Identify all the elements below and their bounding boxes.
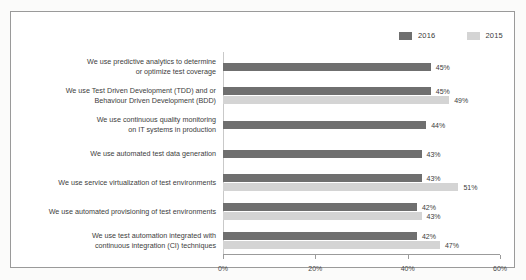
chart-row: We use test automation integrated withco… [223,232,500,249]
category-label-line: We use Test Driven Development (TDD) and… [66,86,216,96]
x-axis-tick-label: 0% [218,265,228,272]
x-axis-line [223,254,500,255]
bar-2016[interactable]: 45% [223,63,431,71]
bar-value-label: 43% [427,213,441,220]
x-axis-tick-label: 40% [401,265,415,272]
legend-item-2016[interactable]: 2016 [399,31,436,40]
category-label: We use service virtualization of test en… [58,178,216,188]
category-label-line: Behaviour Driven Development (BDD) [66,96,216,106]
bar-value-label: 51% [463,184,477,191]
category-label-line: We use test automation integrated with [92,231,216,241]
legend-label-2015: 2015 [486,31,504,40]
bar-value-label: 49% [454,97,468,104]
bar-2015[interactable]: 43% [223,212,422,220]
category-label: We use continuous quality monitoringon I… [97,115,216,135]
x-axis-tick [223,255,224,259]
category-label-line: continuous integration (CI) techniques [92,241,216,251]
bar-2016[interactable]: 42% [223,232,417,240]
category-label: We use automated test data generation [90,149,216,159]
bar-2016[interactable]: 44% [223,121,426,129]
legend-swatch-2016 [399,32,412,40]
bar-2015[interactable]: 49% [223,96,449,104]
category-label-line: We use automated test data generation [90,149,216,159]
category-label-line: on IT systems in production [97,125,216,135]
bar-2016[interactable]: 43% [223,174,422,182]
bar-2016[interactable]: 43% [223,150,422,158]
chart-row: We use automated provisioning of test en… [223,203,500,220]
bar-value-label: 45% [436,63,450,70]
bar-value-label: 43% [427,150,441,157]
category-label: We use Test Driven Development (TDD) and… [66,86,216,106]
bar-value-label: 43% [427,175,441,182]
category-label: We use automated provisioning of test en… [49,207,216,217]
category-label-line: We use predictive analytics to determine [87,57,216,67]
category-label-line: or optimize test coverage [87,67,216,77]
x-axis-tick-label: 60% [493,265,507,272]
chart-row: We use continuous quality monitoringon I… [223,121,500,129]
bar-value-label: 47% [445,242,459,249]
x-axis-tick [408,255,409,259]
x-axis-tick-label: 20% [308,265,322,272]
chart-row: We use service virtualization of test en… [223,174,500,191]
legend-label-2016: 2016 [418,31,436,40]
x-axis-tick [500,255,501,259]
chart-container: 20162015 0%20%40%60%We use predictive an… [10,11,515,268]
plot-area: 0%20%40%60%We use predictive analytics t… [223,52,500,255]
chart-legend: 20162015 [399,31,503,40]
bar-value-label: 42% [422,204,436,211]
category-label-line: We use continuous quality monitoring [97,115,216,125]
legend-swatch-2015 [467,32,480,40]
bar-2015[interactable]: 47% [223,241,440,249]
bar-2015[interactable]: 51% [223,183,458,191]
bar-value-label: 42% [422,233,436,240]
x-axis-tick [315,255,316,259]
chart-row: We use predictive analytics to determine… [223,63,500,71]
category-label-line: We use automated provisioning of test en… [49,207,216,217]
bar-2016[interactable]: 42% [223,203,417,211]
category-label: We use test automation integrated withco… [92,231,216,251]
bar-2016[interactable]: 45% [223,87,431,95]
legend-item-2015[interactable]: 2015 [467,31,504,40]
bar-value-label: 45% [436,88,450,95]
chart-row: We use automated test data generation43% [223,150,500,158]
category-label: We use predictive analytics to determine… [87,57,216,77]
category-label-line: We use service virtualization of test en… [58,178,216,188]
chart-row: We use Test Driven Development (TDD) and… [223,87,500,104]
bar-value-label: 44% [431,121,445,128]
